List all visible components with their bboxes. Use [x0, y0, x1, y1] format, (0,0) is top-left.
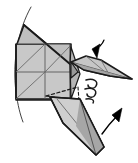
origami-illustration: [0, 0, 138, 163]
origami-diagram: [0, 0, 138, 163]
